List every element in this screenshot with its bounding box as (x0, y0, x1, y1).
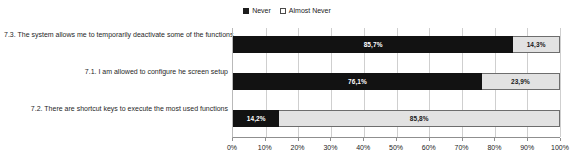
x-axis-tick-label: 80% (487, 143, 501, 152)
gridline (560, 28, 561, 137)
bar-value-label: 14,2% (247, 115, 266, 123)
legend-label-almost-never: Almost Never (289, 7, 331, 15)
table-row: 85,7% 14,3% (233, 36, 560, 53)
category-label-1: 7.3. The system allows me to temporarily… (4, 30, 228, 39)
bar-value-label: 14,3% (527, 41, 546, 49)
x-axis-tick (560, 138, 561, 141)
x-axis-tick (298, 138, 299, 141)
bar-segment-never[interactable]: 76,1% (233, 73, 482, 90)
x-axis-tick (232, 138, 233, 141)
table-row: 76,1% 23,9% (233, 73, 560, 90)
category-label-3: 7.2. There are shortcut keys to execute … (4, 104, 228, 113)
bar-segment-never[interactable]: 85,7% (233, 36, 513, 53)
bar-value-label: 85,8% (410, 115, 429, 123)
x-axis-tick (527, 138, 528, 141)
chart-legend: Never Almost Never (0, 5, 574, 17)
open-square-icon (280, 8, 286, 14)
filled-square-icon (243, 8, 249, 14)
x-axis-tick (265, 138, 266, 141)
x-axis-tick-label: 90% (520, 143, 534, 152)
x-axis-tick-label: 50% (389, 143, 403, 152)
plot-area: 85,7% 14,3% 76,1% 23,9% 14,2% (232, 28, 560, 138)
category-label-2: 7.1. I am allowed to configure he screen… (4, 67, 228, 76)
legend-label-never: Never (252, 7, 271, 15)
bar-value-label: 23,9% (511, 78, 530, 86)
x-axis-tick-label: 70% (455, 143, 469, 152)
bar-segment-almost-never[interactable]: 14,3% (513, 36, 560, 53)
bar-segment-almost-never[interactable]: 23,9% (482, 73, 560, 90)
bar-segment-never[interactable]: 14,2% (233, 110, 279, 127)
bar-group: 85,7% 14,3% 76,1% 23,9% 14,2% (233, 28, 560, 137)
x-axis-tick-label: 40% (356, 143, 370, 152)
x-axis-tick-label: 100% (551, 143, 569, 152)
x-axis-tick (429, 138, 430, 141)
x-axis-tick (462, 138, 463, 141)
stacked-bar-chart: 7.3. The system allows me to temporarily… (0, 26, 574, 164)
legend-entry-almost-never: Almost Never (280, 7, 331, 15)
x-axis-tick-label: 0% (227, 143, 237, 152)
x-axis-tick-label: 10% (258, 143, 272, 152)
x-axis-tick (363, 138, 364, 141)
x-axis-tick (494, 138, 495, 141)
bar-value-label: 76,1% (348, 78, 367, 86)
bar-segment-almost-never[interactable]: 85,8% (279, 110, 560, 127)
x-axis-tick (330, 138, 331, 141)
x-axis-tick-label: 60% (422, 143, 436, 152)
x-axis-tick-label: 30% (323, 143, 337, 152)
legend-entry-never: Never (243, 7, 271, 15)
x-axis-tick-label: 20% (291, 143, 305, 152)
table-row: 14,2% 85,8% (233, 110, 560, 127)
x-axis: 0%10%20%30%40%50%60%70%80%90%100% (232, 138, 560, 158)
bar-value-label: 85,7% (364, 41, 383, 49)
x-axis-tick (396, 138, 397, 141)
